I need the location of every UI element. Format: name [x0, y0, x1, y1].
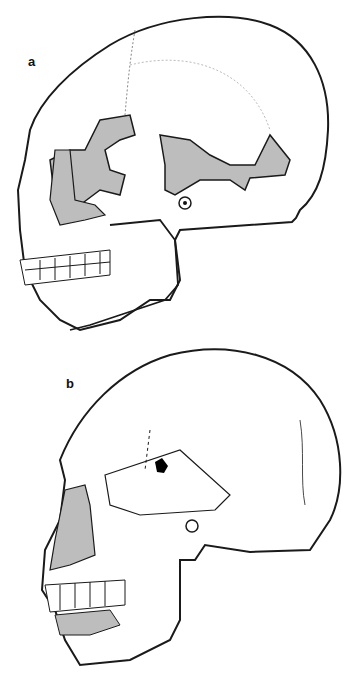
panel-b: b	[0, 340, 362, 680]
skull-b-illustration	[0, 340, 362, 680]
skull-a-illustration	[0, 0, 362, 340]
panel-a: a	[0, 0, 362, 340]
